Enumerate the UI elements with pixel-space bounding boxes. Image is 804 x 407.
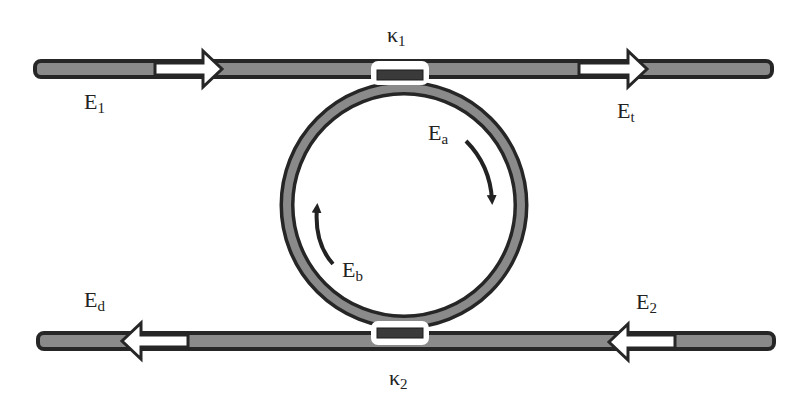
label-ring-ea: Ea [428, 120, 448, 147]
ring-resonator [287, 88, 521, 322]
svg-text:κ2: κ2 [389, 365, 408, 392]
microring-diagram: E1 Et Ed E2 Ea Eb κ1 κ2 [0, 0, 804, 407]
svg-text:E2: E2 [636, 289, 657, 316]
label-coupler-k1: κ1 [387, 22, 406, 49]
coupler-bottom-region [372, 322, 428, 344]
drop-arrow-icon [122, 323, 188, 359]
label-through-et: Et [617, 98, 635, 125]
svg-text:Et: Et [617, 98, 635, 125]
svg-text:Ea: Ea [428, 120, 448, 147]
clockwise-arrow-icon [466, 141, 492, 200]
add-arrow-icon [609, 324, 675, 360]
svg-text:κ1: κ1 [387, 22, 406, 49]
through-arrow-icon [579, 51, 647, 87]
coupler-top-region [372, 62, 428, 84]
label-ring-eb: Eb [342, 257, 363, 284]
label-add-e2: E2 [636, 289, 657, 316]
counterclockwise-arrow-icon [317, 208, 333, 264]
input-arrow-icon [155, 51, 222, 87]
svg-text:Eb: Eb [342, 257, 363, 284]
label-input-e1: E1 [84, 89, 105, 116]
svg-text:Ed: Ed [84, 287, 105, 314]
svg-text:E1: E1 [84, 89, 105, 116]
label-drop-ed: Ed [84, 287, 105, 314]
label-coupler-k2: κ2 [389, 365, 408, 392]
